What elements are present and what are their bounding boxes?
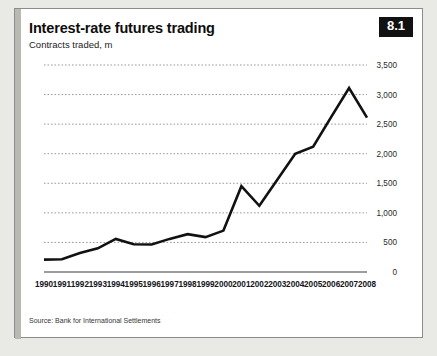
y-axis-tick-label: 3,000 [377, 91, 398, 100]
line-chart: 05001,0001,5002,0002,5003,0003,500199019… [24, 57, 423, 302]
y-axis-tick-label: 0 [392, 268, 397, 277]
source-note: Source: Bank for International Settlemen… [29, 317, 161, 324]
x-axis-tick-label: 1999 [196, 280, 215, 289]
x-axis-tick-label: 1990 [35, 280, 54, 289]
x-axis-tick-label: 1991 [53, 280, 72, 289]
y-axis-tick-label: 2,500 [377, 120, 398, 129]
x-axis-tick-label: 1992 [71, 280, 90, 289]
y-axis-tick-label: 2,000 [377, 150, 398, 159]
x-axis-tick-label: 2007 [340, 280, 359, 289]
x-axis-tick-label: 2001 [232, 280, 251, 289]
x-axis-tick-label: 1993 [89, 280, 108, 289]
y-axis-tick-label: 500 [383, 238, 397, 247]
y-axis-tick-label: 3,500 [377, 61, 398, 70]
chart-subtitle: Contracts traded, m [29, 39, 112, 50]
x-axis-tick-label: 2002 [250, 280, 269, 289]
figure-number-badge: 8.1 [379, 17, 413, 37]
screenshot-root: Interest-rate futures trading Contracts … [0, 0, 437, 356]
x-axis-tick-label: 1994 [107, 280, 126, 289]
x-axis-tick-label: 2004 [286, 280, 305, 289]
x-axis-tick-label: 2005 [304, 280, 323, 289]
x-axis-tick-label: 2008 [358, 280, 377, 289]
data-series-line [44, 88, 367, 260]
accent-bar [15, 9, 21, 339]
x-axis-tick-label: 2000 [214, 280, 233, 289]
x-axis-tick-label: 2003 [268, 280, 287, 289]
x-axis-tick-label: 1997 [161, 280, 180, 289]
page-title: Interest-rate futures trading [29, 20, 215, 36]
y-axis-tick-label: 1,000 [377, 209, 398, 218]
x-axis-tick-label: 1998 [178, 280, 197, 289]
y-axis-tick-label: 1,500 [377, 179, 398, 188]
chart-card: Interest-rate futures trading Contracts … [14, 8, 423, 338]
x-axis-tick-label: 2006 [322, 280, 341, 289]
x-axis-tick-label: 1995 [125, 280, 144, 289]
chart-plot-area: 05001,0001,5002,0002,5003,0003,500199019… [24, 57, 423, 302]
x-axis-tick-label: 1996 [143, 280, 162, 289]
